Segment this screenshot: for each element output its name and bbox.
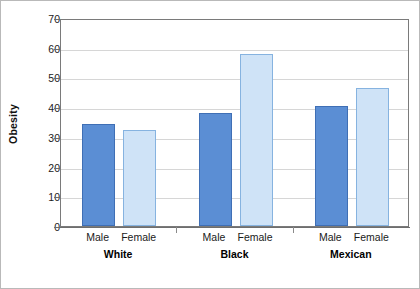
x-axis-sub-label: Male [319,231,342,243]
y-axis-tick-label: 60 [8,43,60,55]
bar-mexican-male [315,106,348,226]
x-axis-line [60,227,410,228]
x-axis-sub-label: Female [354,231,389,243]
y-axis-tick-label: 20 [8,162,60,174]
y-axis-tick-label: 40 [8,102,60,114]
y-axis-tick-label: 0 [8,221,60,233]
x-axis-sub-label: Male [86,231,109,243]
plot-area [60,19,409,227]
bar-mexican-female [356,88,389,226]
y-axis-tick-label: 10 [8,191,60,203]
y-axis-tick-labels: 010203040506070 [1,1,60,289]
bar-white-female [123,130,156,226]
bar-white-male [82,124,115,227]
bar-black-female [240,54,273,226]
x-axis-sub-label: Male [203,231,226,243]
x-axis-group-tick [293,227,294,233]
x-axis-group-label: White [104,248,133,260]
x-axis-sub-label: Female [237,231,272,243]
x-axis-group-tick [176,227,177,233]
y-axis-tick-label: 50 [8,72,60,84]
obesity-bar-chart: Obesity 010203040506070 MaleFemaleWhiteM… [0,0,420,289]
x-axis-sub-label: Female [121,231,156,243]
y-axis-tick-label: 70 [8,13,60,25]
x-axis-group-label: Black [220,248,248,260]
gridline [61,79,408,80]
x-axis-group-label: Mexican [330,248,371,260]
bar-black-male [199,113,232,227]
gridline [61,50,408,51]
y-axis-tick-label: 30 [8,132,60,144]
